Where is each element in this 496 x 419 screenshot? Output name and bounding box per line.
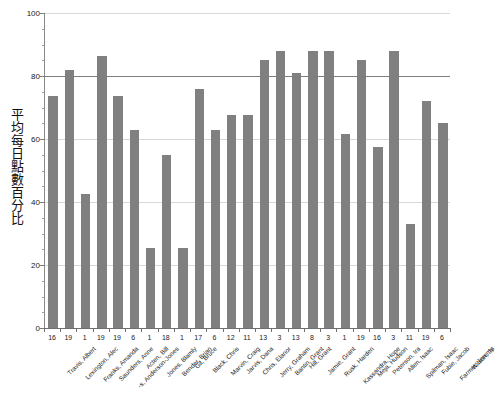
y-axis-tick-label: 80 bbox=[18, 72, 40, 81]
x-axis-line bbox=[44, 328, 450, 329]
x-tick bbox=[418, 328, 419, 332]
x-axis-secondary-label: 19 bbox=[113, 334, 121, 341]
bar bbox=[130, 130, 139, 328]
x-axis-secondary-label: 1 bbox=[83, 334, 87, 341]
bar bbox=[178, 248, 187, 328]
x-axis-secondary-label: 1 bbox=[180, 334, 184, 341]
x-axis-secondary-label: 19 bbox=[422, 334, 430, 341]
bar bbox=[65, 70, 74, 328]
x-tick bbox=[434, 328, 435, 332]
y-axis-tick-label: 20 bbox=[18, 261, 40, 270]
bar bbox=[97, 56, 106, 328]
x-axis-secondary-label: 6 bbox=[213, 334, 217, 341]
bar bbox=[211, 130, 220, 328]
y-axis-tick-label: 40 bbox=[18, 198, 40, 207]
bar bbox=[260, 60, 269, 328]
x-tick bbox=[369, 328, 370, 332]
x-axis-secondary-label: 11 bbox=[406, 334, 413, 341]
x-tick bbox=[141, 328, 142, 332]
x-axis-secondary-label: 3 bbox=[326, 334, 330, 341]
x-tick bbox=[353, 328, 354, 332]
x-tick bbox=[320, 328, 321, 332]
x-tick bbox=[206, 328, 207, 332]
bar bbox=[113, 96, 122, 328]
bar bbox=[195, 89, 204, 328]
bar bbox=[276, 51, 285, 328]
x-tick bbox=[271, 328, 272, 332]
bar bbox=[373, 147, 382, 328]
x-axis-secondary-label: 19 bbox=[97, 334, 105, 341]
x-axis-secondary-label: 3 bbox=[278, 334, 282, 341]
bar-series bbox=[45, 13, 450, 328]
y-axis-title: 平均每日點數百分比 bbox=[2, 108, 24, 225]
bar bbox=[438, 123, 447, 328]
x-axis-secondary-label: 19 bbox=[357, 334, 365, 341]
x-tick bbox=[60, 328, 61, 332]
bar bbox=[81, 194, 90, 328]
x-tick bbox=[174, 328, 175, 332]
reference-line bbox=[41, 76, 450, 77]
bar bbox=[406, 224, 415, 328]
y-axis-tick-label: 0 bbox=[18, 324, 40, 333]
bar bbox=[324, 51, 333, 328]
bar bbox=[146, 248, 155, 328]
x-tick bbox=[304, 328, 305, 332]
x-axis-secondary-label: 1 bbox=[148, 334, 152, 341]
x-axis-secondary-label: 8 bbox=[310, 334, 314, 341]
x-axis-secondary-label: 17 bbox=[194, 334, 202, 341]
bar bbox=[48, 96, 57, 328]
bar bbox=[389, 51, 398, 328]
bar bbox=[243, 115, 252, 328]
bar bbox=[292, 73, 301, 328]
x-tick bbox=[93, 328, 94, 332]
bar bbox=[308, 51, 317, 328]
x-axis-secondary-label: 6 bbox=[131, 334, 135, 341]
x-axis-secondary-label: 13 bbox=[292, 334, 300, 341]
x-tick bbox=[109, 328, 110, 332]
x-tick bbox=[44, 328, 45, 332]
y-axis-tick-label: 60 bbox=[18, 135, 40, 144]
bar bbox=[162, 155, 171, 328]
x-axis-category-label: Wilson, Jo bbox=[470, 345, 496, 371]
x-tick bbox=[239, 328, 240, 332]
x-axis-secondary-label: 3 bbox=[391, 334, 395, 341]
x-axis-secondary-label: 16 bbox=[48, 334, 56, 341]
x-axis-secondary-label: 6 bbox=[440, 334, 444, 341]
x-tick bbox=[336, 328, 337, 332]
x-tick bbox=[158, 328, 159, 332]
x-tick bbox=[450, 328, 451, 332]
x-axis-secondary-label: 12 bbox=[227, 334, 235, 341]
bar bbox=[422, 101, 431, 328]
x-axis-secondary-label: 11 bbox=[243, 334, 250, 341]
x-tick bbox=[223, 328, 224, 332]
x-axis-secondary-label: 18 bbox=[162, 334, 170, 341]
x-tick bbox=[190, 328, 191, 332]
x-tick bbox=[255, 328, 256, 332]
plot-area bbox=[44, 13, 450, 328]
y-axis-tick-label: 100 bbox=[18, 9, 40, 18]
x-axis-secondary-label: 13 bbox=[259, 334, 267, 341]
bar bbox=[227, 115, 236, 328]
x-axis-secondary-label: 1 bbox=[342, 334, 346, 341]
bar bbox=[357, 60, 366, 328]
x-tick bbox=[385, 328, 386, 332]
x-tick bbox=[125, 328, 126, 332]
x-axis-secondary-label: 19 bbox=[64, 334, 72, 341]
bar bbox=[341, 134, 350, 328]
x-tick bbox=[76, 328, 77, 332]
x-tick bbox=[288, 328, 289, 332]
x-axis-secondary-label: 16 bbox=[373, 334, 381, 341]
x-tick bbox=[401, 328, 402, 332]
